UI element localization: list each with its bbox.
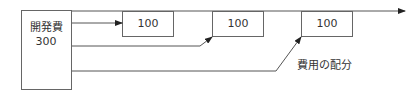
allocation-arrow-3	[72, 37, 301, 71]
source-title: 開発費	[21, 18, 71, 34]
allocation-diagram	[0, 0, 412, 100]
annotation-label: 費用の配分	[297, 56, 352, 72]
allocation-value-2: 100	[212, 17, 264, 30]
allocation-value-1: 100	[122, 17, 174, 30]
allocation-value-3: 100	[301, 17, 353, 30]
source-value: 300	[21, 35, 71, 48]
allocation-arrow-2	[72, 37, 212, 46]
